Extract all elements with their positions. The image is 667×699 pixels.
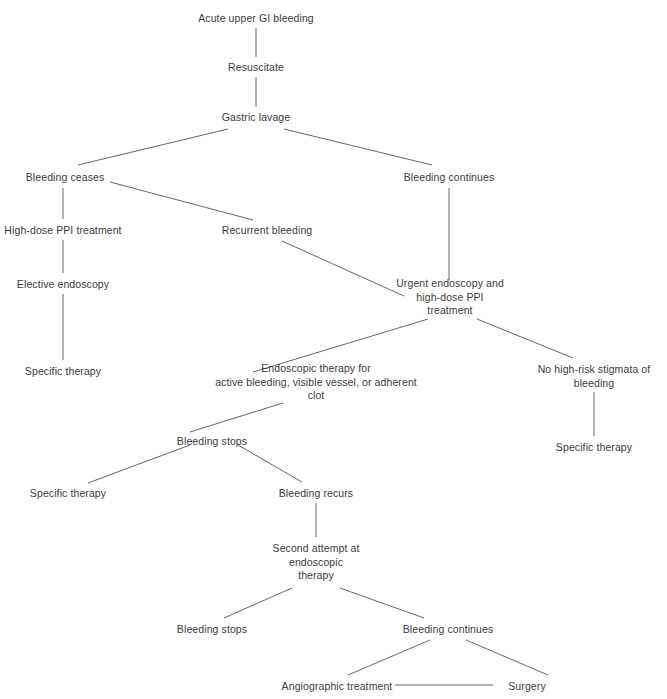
flow-node: No high-risk stigmata of bleeding [519, 363, 667, 390]
flow-node: Bleeding stops [152, 623, 272, 637]
flow-node: Bleeding continues [379, 171, 519, 185]
flow-node: Resuscitate [196, 61, 316, 75]
flow-node: Acute upper GI bleeding [171, 12, 341, 26]
flow-edge [466, 640, 548, 675]
flow-node: Urgent endoscopy and high-dose PPI treat… [375, 277, 525, 318]
flow-edge [224, 588, 292, 618]
flow-node: Gastric lavage [191, 111, 321, 125]
flow-node: Specific therapy [0, 365, 128, 379]
flow-edge [190, 403, 283, 432]
flow-node: High-dose PPI treatment [0, 224, 143, 238]
flow-node: Bleeding recurs [256, 487, 376, 501]
flow-edge [477, 319, 573, 358]
flow-edge [110, 182, 253, 220]
flow-edge [284, 129, 432, 165]
flow-edge [340, 588, 424, 618]
flow-node: Endoscopic therapy for active bleeding, … [201, 362, 431, 403]
flowchart-canvas: Acute upper GI bleedingResuscitateGastri… [0, 0, 667, 699]
flow-node: Angiographic treatment [257, 680, 417, 694]
flowchart-edge-layer [0, 0, 667, 699]
flow-edge [88, 445, 190, 483]
flow-node: Bleeding stops [152, 435, 272, 449]
flow-edge [348, 640, 430, 675]
flow-edge [78, 129, 228, 165]
flow-node: Elective endoscopy [0, 278, 133, 292]
flow-node: Second attempt at endoscopic therapy [246, 542, 386, 583]
flow-node: Recurrent bleeding [197, 224, 337, 238]
flow-node: Specific therapy [3, 487, 133, 501]
flow-node: Bleeding ceases [0, 171, 130, 185]
flow-node: Bleeding continues [378, 623, 518, 637]
flow-node: Specific therapy [529, 441, 659, 455]
flow-node: Surgery [482, 680, 572, 694]
flow-edge [238, 445, 302, 482]
